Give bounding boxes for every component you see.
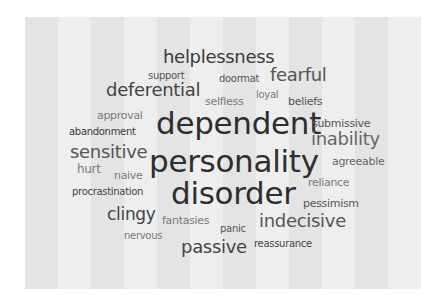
word-abandonment: abandonment [69, 127, 136, 137]
word-hurt: hurt [77, 163, 101, 175]
word-indecisive: indecisive [259, 212, 346, 230]
word-dependent: dependent [156, 108, 321, 139]
word-inability: inability [311, 130, 380, 148]
word-fearful: fearful [270, 66, 327, 84]
word-clingy: clingy [107, 206, 156, 223]
word-reassurance: reassurance [254, 239, 312, 249]
word-pessimism: pessimism [303, 198, 359, 209]
word-deferential: deferential [106, 81, 200, 99]
word-naive: naive [114, 170, 143, 181]
word-helplessness: helplessness [163, 48, 274, 66]
word-doormat: doormat [219, 74, 259, 84]
word-procrastination: procrastination [72, 187, 143, 197]
word-panic: panic [220, 224, 246, 234]
word-loyal: loyal [256, 90, 278, 100]
word-disorder: disorder [171, 178, 296, 209]
word-fantasies: fantasies [162, 215, 209, 226]
word-sensitive: sensitive [70, 143, 147, 161]
word-nervous: nervous [124, 231, 162, 241]
word-reliance: reliance [308, 177, 349, 188]
word-personality: personality [149, 146, 319, 177]
word-agreeable: agreeable [332, 156, 384, 167]
word-approval: approval [97, 110, 143, 121]
word-passive: passive [181, 238, 247, 256]
